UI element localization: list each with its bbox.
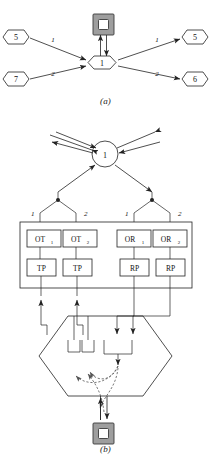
port-box-or2: OR 2 [153,230,187,247]
edge-label-in-2: 2 [51,70,55,78]
port-box-or1: OR 1 [117,230,151,247]
proc-box-rp2: RP [156,259,185,276]
port-label-t2: 2 [84,210,88,218]
panel-b-node-architecture: 1 1 2 1 2 [0,120,211,450]
output-node-5-label: 5 [193,33,197,42]
u-connector-right [104,340,132,354]
u-connector-left [68,340,80,352]
ext-link-in-upper-left [56,132,96,148]
transmit-branch [40,192,76,222]
edge-label-in-1: 1 [51,36,55,44]
edge-in-1 [30,38,86,60]
switch-path-2 [76,366,118,383]
port-label-t1: 1 [31,210,35,218]
output-node-6: 6 [182,72,208,86]
ext-link-out-upper-right [117,132,155,148]
center-node-a: 1 [88,56,116,69]
device-icon-a [93,14,114,35]
caption-a: (a) [0,96,211,106]
route-rp1-switch [117,288,134,334]
switch-path-1 [90,366,118,379]
device-icon-b [93,423,114,444]
center-node-b-label: 1 [103,151,107,160]
elbow-tp1 [41,325,47,335]
edge-in-2 [30,66,86,79]
input-node-5: 5 [3,30,29,44]
switch-fabric-hexagon [39,316,172,396]
input-node-7: 7 [3,72,29,86]
ext-link-ul-in [50,135,92,150]
receive-branch [134,192,170,222]
or1-label: OR [125,235,135,244]
ext-link-out-upper-left [52,142,93,153]
device-link-a [101,35,107,58]
center-node-b: 1 [92,141,118,167]
tp1-label: TP [37,264,46,273]
ot1-label: OT [35,235,45,244]
caption-b: (b) [0,444,211,454]
edge-out-2 [118,66,180,79]
port-label-r1: 1 [125,210,129,218]
figure-root: 1 5 7 5 6 1 2 1 2 (a) [0,0,211,466]
rp1-label: RP [130,264,139,273]
port-box-ot1: OT 1 [27,230,61,247]
link-tx-up [58,165,95,192]
edge-label-out-1: 1 [155,36,159,44]
tp2-label: TP [73,264,82,273]
proc-box-tp1: TP [27,259,56,276]
panel-a-network-diagram: 1 5 7 5 6 1 2 1 2 [0,0,211,100]
proc-box-tp2: TP [63,259,92,276]
edge-label-out-2: 2 [155,70,159,78]
switch-path-4 [88,374,104,412]
elbow-tp2 [77,325,83,335]
edge-out-1 [118,39,180,60]
port-box-ot2: OT 2 [63,230,97,247]
output-node-6-label: 6 [193,75,197,84]
output-node-5: 5 [182,30,208,44]
center-node-a-label: 1 [100,59,104,68]
rp2-label: RP [166,264,175,273]
ot2-label: OT [71,235,81,244]
link-rx-down [115,165,152,192]
proc-box-rp1: RP [120,259,149,276]
ext-link-in-upper-right [119,142,160,153]
or2-label: OR [161,235,171,244]
u-connector-mid [82,340,94,352]
port-label-r2: 2 [178,210,182,218]
input-node-5-label: 5 [14,33,18,42]
input-node-7-label: 7 [14,75,18,84]
